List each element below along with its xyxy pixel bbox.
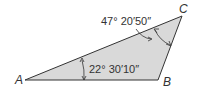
vertex-a-label: A: [15, 74, 23, 86]
angle-a-label: 22° 30′10″: [89, 64, 139, 75]
vertex-b-label: B: [163, 76, 171, 88]
angle-c-label: 47° 20′50″: [101, 16, 151, 27]
vertex-c-label: C: [179, 3, 188, 15]
